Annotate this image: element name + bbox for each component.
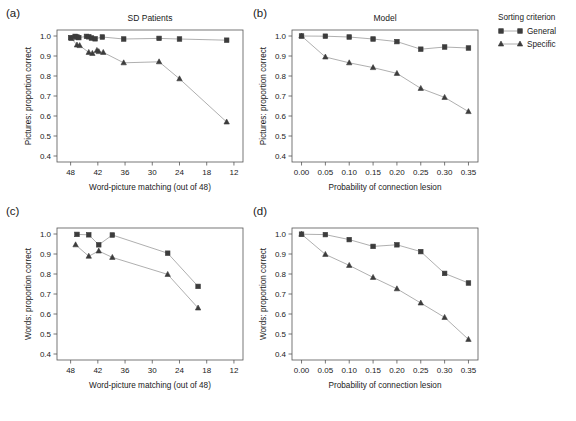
x-tick-label: 0.30 [437, 168, 453, 177]
data-point-triangle [156, 59, 161, 64]
panel-letter-d: (d) [253, 205, 267, 217]
y-tick-label: 0.5 [40, 132, 52, 141]
series-markers-specific [73, 242, 201, 310]
x-axis-title: Probability of connection lesion [329, 183, 442, 192]
data-point-square [157, 36, 162, 41]
data-point-square [466, 46, 471, 51]
data-point-square [518, 29, 523, 34]
series-markers-specific [69, 35, 230, 124]
panel-letter-c: (c) [6, 205, 20, 217]
data-point-square [466, 281, 471, 286]
y-tick-label: 0.9 [275, 250, 287, 259]
x-tick-label: 42 [93, 366, 102, 375]
data-point-square [395, 243, 400, 248]
y-tick-label: 0.9 [40, 250, 52, 259]
y-tick-label: 0.6 [40, 310, 52, 319]
x-tick-label: 48 [66, 366, 75, 375]
legend-title: Sorting criterion [498, 13, 556, 22]
data-point-square [76, 35, 81, 40]
data-point-square [100, 35, 105, 40]
x-tick-label: 0.25 [413, 366, 429, 375]
y-tick-label: 0.8 [275, 72, 287, 81]
x-axis-title: Word-picture matching (out of 48) [89, 381, 211, 390]
data-point-triangle [86, 253, 91, 258]
data-point-square [75, 232, 80, 237]
data-point-triangle [177, 76, 182, 81]
data-point-square [196, 284, 201, 289]
x-tick-label: 0.00 [294, 366, 310, 375]
x-tick-label: 0.10 [341, 366, 357, 375]
data-point-square [418, 249, 423, 254]
data-point-square [371, 37, 376, 42]
x-tick-label: 0.05 [318, 366, 334, 375]
y-tick-label: 0.9 [40, 52, 52, 61]
data-point-square [93, 37, 98, 42]
x-tick-label: 0.35 [461, 366, 477, 375]
y-tick-label: 0.8 [275, 270, 287, 279]
panel-b: (b)Model0.000.050.100.150.200.250.300.35… [253, 7, 478, 192]
x-tick-label: 0.30 [437, 366, 453, 375]
legend-label-specific: Specific [527, 40, 556, 49]
y-tick-label: 0.7 [40, 290, 52, 299]
data-point-square [323, 34, 328, 39]
panel-c: (c)484236302418120.40.50.60.70.80.91.0Wo… [6, 205, 243, 390]
data-point-square [347, 35, 352, 40]
y-tick-label: 1.0 [40, 230, 52, 239]
figure-svg: (a)SD Patients484236302418120.40.50.60.7… [0, 0, 576, 421]
data-point-triangle [517, 41, 522, 46]
x-tick-label: 36 [121, 168, 130, 177]
data-point-triangle [121, 60, 126, 65]
x-tick-label: 12 [229, 366, 238, 375]
y-tick-label: 1.0 [275, 230, 287, 239]
x-tick-label: 24 [175, 366, 184, 375]
series-markers-general [299, 34, 471, 52]
y-tick-label: 0.4 [275, 152, 287, 161]
figure-container: (a)SD Patients484236302418120.40.50.60.7… [0, 0, 576, 421]
series-line-specific [76, 245, 198, 308]
x-tick-label: 24 [175, 168, 184, 177]
data-point-triangle [498, 41, 503, 46]
y-tick-label: 0.7 [275, 290, 287, 299]
y-tick-label: 0.8 [40, 270, 52, 279]
data-point-square [395, 39, 400, 44]
x-tick-label: 0.10 [341, 168, 357, 177]
y-tick-label: 0.8 [40, 72, 52, 81]
y-tick-label: 0.6 [275, 310, 287, 319]
y-axis-title: Words: proportion correct [259, 247, 268, 340]
data-point-square [347, 237, 352, 242]
data-point-triangle [418, 300, 423, 305]
x-tick-label: 30 [148, 168, 157, 177]
data-point-triangle [442, 314, 447, 319]
y-tick-label: 0.5 [275, 330, 287, 339]
data-point-triangle [73, 242, 78, 247]
series-markers-general [75, 232, 201, 289]
series-markers-specific [299, 231, 471, 341]
y-axis-title: Pictures: proportion correct [259, 46, 268, 145]
data-point-square [499, 29, 504, 34]
panel-letter-b: (b) [253, 7, 267, 19]
data-point-square [224, 38, 229, 43]
data-point-square [371, 244, 376, 249]
series-line-general [77, 234, 198, 286]
x-tick-label: 0.05 [318, 168, 334, 177]
legend-label-general: General [527, 27, 556, 36]
y-tick-label: 0.4 [275, 350, 287, 359]
panel-letter-a: (a) [6, 7, 20, 19]
x-tick-label: 18 [202, 366, 211, 375]
data-point-square [418, 47, 423, 52]
y-tick-label: 0.7 [40, 92, 52, 101]
data-point-square [323, 232, 328, 237]
y-tick-label: 1.0 [40, 32, 52, 41]
panel-a: (a)SD Patients484236302418120.40.50.60.7… [6, 7, 243, 192]
x-axis-title: Probability of connection lesion [329, 381, 442, 390]
x-tick-label: 0.15 [365, 366, 381, 375]
x-tick-label: 0.00 [294, 168, 310, 177]
data-point-square [177, 37, 182, 42]
x-tick-label: 30 [148, 366, 157, 375]
plot-frame [292, 30, 478, 162]
panel-d: (d)0.000.050.100.150.200.250.300.350.40.… [253, 205, 478, 390]
panel-title: SD Patients [128, 13, 173, 23]
data-point-triangle [370, 274, 375, 279]
y-tick-label: 0.5 [40, 330, 52, 339]
data-point-square [96, 243, 101, 248]
